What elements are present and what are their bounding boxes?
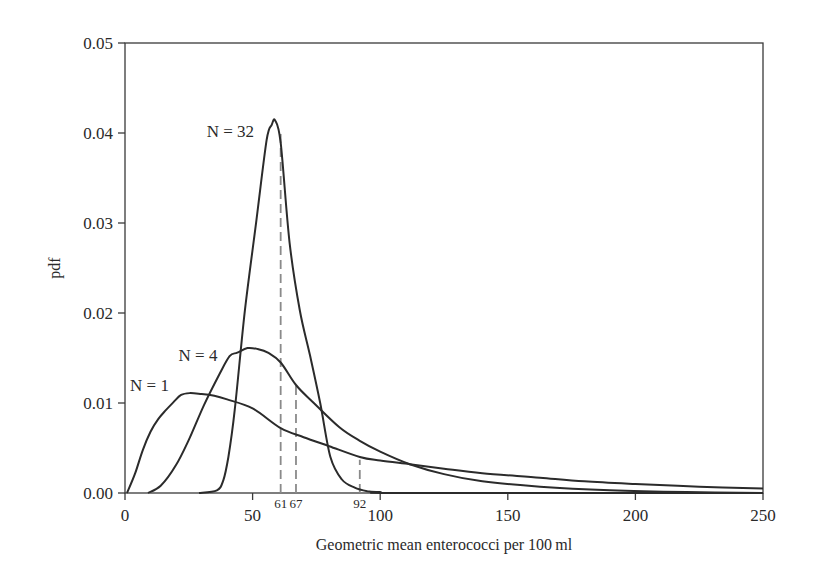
x-axis-title: Geometric mean enterococci per 100 ml bbox=[316, 536, 573, 554]
pdf-curve-n4 bbox=[148, 348, 763, 493]
percentile-marker-label: 92 bbox=[353, 496, 366, 511]
x-tick-label: 150 bbox=[495, 506, 521, 525]
plot-frame bbox=[125, 43, 763, 493]
pdf-curve-n32 bbox=[199, 119, 763, 493]
x-tick-label: 100 bbox=[367, 506, 393, 525]
y-tick-label: 0.03 bbox=[83, 214, 113, 233]
y-tick-label: 0.05 bbox=[83, 34, 113, 53]
curve-label: N = 1 bbox=[130, 376, 169, 395]
curve-label: N = 32 bbox=[207, 122, 254, 141]
x-tick-label: 0 bbox=[121, 506, 130, 525]
y-axis-title: pdf bbox=[46, 257, 64, 279]
x-tick-label: 200 bbox=[623, 506, 649, 525]
y-tick-label: 0.04 bbox=[83, 124, 113, 143]
pdf-chart: 0501001502002500.000.010.020.030.040.05 … bbox=[0, 0, 815, 581]
x-tick-label: 250 bbox=[750, 506, 776, 525]
curve-labels: N = 1N = 4N = 32 bbox=[130, 122, 254, 396]
pdf-curves bbox=[127, 119, 763, 493]
y-tick-label: 0.00 bbox=[83, 484, 113, 503]
axes: 0501001502002500.000.010.020.030.040.05 bbox=[83, 34, 776, 525]
pdf-curve-n1 bbox=[127, 393, 763, 493]
x-tick-label: 50 bbox=[244, 506, 261, 525]
curve-label: N = 4 bbox=[179, 346, 218, 365]
y-tick-label: 0.02 bbox=[83, 304, 113, 323]
percentile-marker-label: 61 bbox=[274, 496, 287, 511]
y-tick-label: 0.01 bbox=[83, 394, 113, 413]
percentile-marker-label: 67 bbox=[289, 496, 303, 511]
